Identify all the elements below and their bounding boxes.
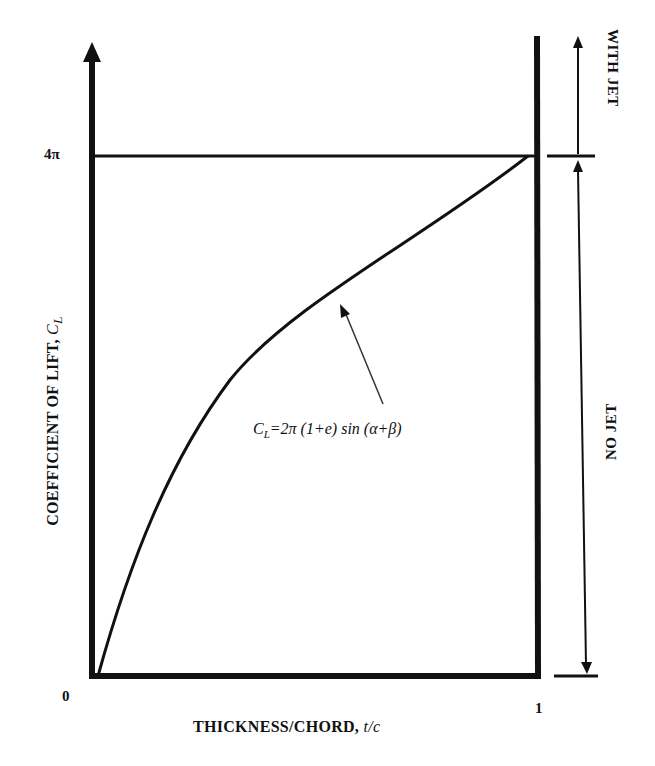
- y-axis-label: COEFFICIENT OF LIFT, CL: [44, 316, 66, 526]
- origin-tick-0: 0: [62, 688, 70, 705]
- no-jet-arrow-shaft: [578, 170, 586, 664]
- formula-pointer-arrowhead-icon: [340, 304, 350, 318]
- x-axis-label-variable: t/c: [363, 718, 380, 735]
- lift-curve: [98, 156, 528, 676]
- formula-pointer-line: [345, 312, 383, 404]
- with-jet-label: WITH JET: [604, 29, 621, 107]
- x-tick-1: 1: [535, 700, 543, 717]
- y-axis-arrowhead-icon: [83, 42, 101, 62]
- no-jet-label: NO JET: [603, 403, 620, 460]
- right-boundary-line: [537, 36, 538, 679]
- formula-rest: =2π (1+e) sin (α+β): [270, 420, 402, 437]
- x-axis-label-text: THICKNESS/CHORD,: [193, 718, 363, 735]
- with-jet-arrow-up-icon: [573, 36, 583, 48]
- formula-c: C: [253, 420, 264, 437]
- no-jet-arrow-down-icon: [581, 662, 592, 674]
- lift-formula-annotation: CL=2π (1+e) sin (α+β): [253, 420, 402, 440]
- y-axis-label-variable: CL: [44, 316, 61, 335]
- y-axis-label-var-sub: L: [50, 316, 65, 324]
- y-axis-label-var-main: C: [44, 324, 61, 335]
- y-tick-4pi: 4π: [44, 146, 60, 163]
- chart-canvas: [0, 0, 655, 766]
- y-axis-label-text: COEFFICIENT OF LIFT,: [44, 335, 61, 526]
- x-axis-label: THICKNESS/CHORD, t/c: [193, 718, 380, 736]
